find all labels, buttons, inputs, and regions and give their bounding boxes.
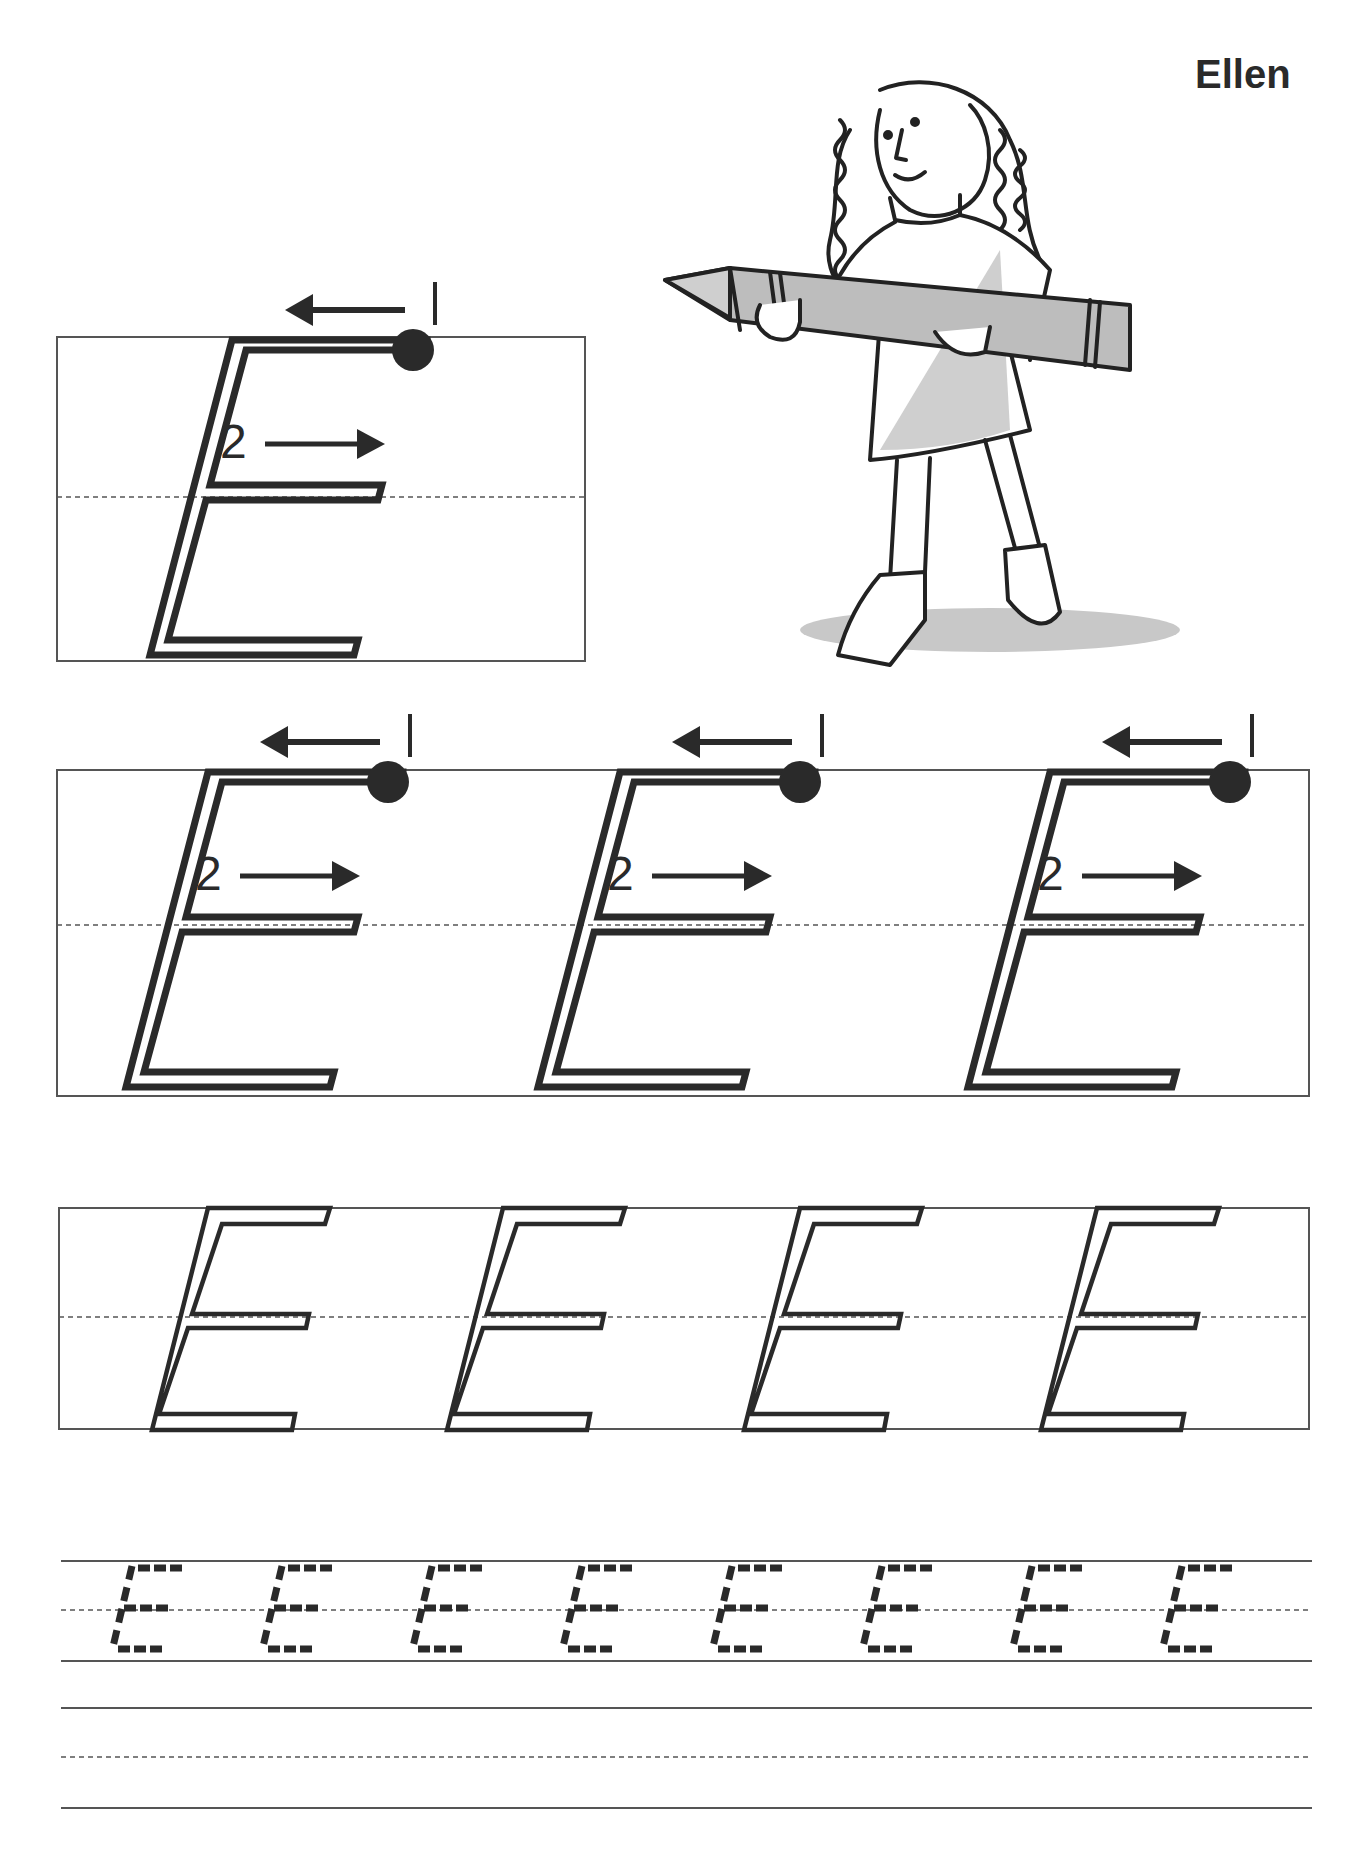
blank-practice-row[interactable] bbox=[61, 1708, 1312, 1808]
dashed-trace-row bbox=[61, 1561, 1312, 1661]
demo-letter-box bbox=[57, 282, 585, 661]
guided-letter-row bbox=[57, 714, 1309, 1096]
girl-with-crayon-illustration bbox=[665, 82, 1180, 665]
stroke-order-guides bbox=[220, 282, 435, 468]
trace-outline-row bbox=[59, 1208, 1309, 1430]
